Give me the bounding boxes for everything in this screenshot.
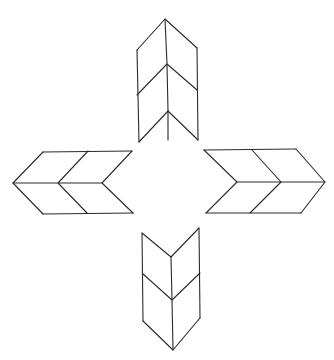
arrow-down-edge [143, 318, 200, 350]
arrow-right-edge [204, 150, 237, 213]
arrow-down-edge [171, 257, 173, 350]
arrow-right-edge [204, 149, 296, 150]
arrow-up-edge [137, 19, 197, 50]
arrow-down-edge [142, 228, 199, 257]
arrow-up [137, 19, 198, 142]
arrow-left-edge [43, 213, 133, 214]
chevron-arrows-diagram [0, 0, 334, 360]
arrow-down-edge [142, 233, 143, 321]
arrow-left [13, 151, 133, 214]
arrow-up-edge [197, 48, 198, 140]
arrow-up-edge [137, 50, 139, 142]
arrow-down [142, 228, 200, 350]
arrow-left-edge [102, 151, 133, 213]
arrow-left-edge [58, 151, 88, 213]
arrow-up-edge [165, 19, 168, 140]
arrow-right-edge [296, 149, 325, 213]
arrow-right [204, 149, 325, 213]
